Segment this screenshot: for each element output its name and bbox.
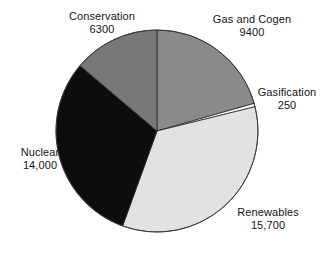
pie-label-renewables: Renewables 15,700 [216, 206, 320, 232]
pie-label-nuclear-value: 14,000 [4, 159, 76, 172]
pie-label-gas-and-cogen: Gas and Cogen 9400 [196, 13, 308, 39]
pie-label-gasification: Gasification 250 [246, 86, 328, 112]
pie-label-nuclear: Nuclear 14,000 [4, 146, 76, 172]
pie-label-gas-and-cogen-name: Gas and Cogen [196, 13, 308, 26]
pie-label-conservation-value: 6300 [46, 23, 158, 36]
pie-label-conservation: Conservation 6300 [46, 10, 158, 36]
pie-label-gasification-name: Gasification [246, 86, 328, 99]
pie-slice-group [56, 30, 258, 232]
pie-chart: Conservation 6300 Gas and Cogen 9400 Gas… [0, 0, 329, 255]
pie-label-renewables-name: Renewables [216, 206, 320, 219]
pie-label-renewables-value: 15,700 [216, 219, 320, 232]
pie-label-nuclear-name: Nuclear [4, 146, 76, 159]
pie-label-gasification-value: 250 [246, 99, 328, 112]
pie-label-gas-and-cogen-value: 9400 [196, 26, 308, 39]
pie-label-conservation-name: Conservation [46, 10, 158, 23]
